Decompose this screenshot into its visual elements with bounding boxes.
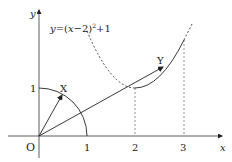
parabola-dashed-branch	[87, 31, 135, 88]
x-tick-3: 3	[180, 142, 186, 153]
parabola-dashed-top	[184, 24, 192, 40]
vector-oy	[39, 67, 163, 136]
y-tick-1: 1	[30, 83, 36, 94]
y-axis-label: y	[29, 8, 36, 19]
x-axis-label: x	[220, 142, 226, 153]
curve-equation-label: y=(x−2)2+1	[49, 22, 111, 34]
point-y-label: Y	[156, 55, 164, 66]
x-tick-2: 2	[132, 142, 138, 153]
coordinate-diagram: x y O 1 2 3 1 X Y y=(x−2)2+1	[0, 0, 232, 162]
unit-circle-arc	[39, 88, 87, 136]
x-tick-1: 1	[84, 142, 90, 153]
point-x-label: X	[60, 83, 68, 94]
origin-label: O	[26, 141, 35, 154]
